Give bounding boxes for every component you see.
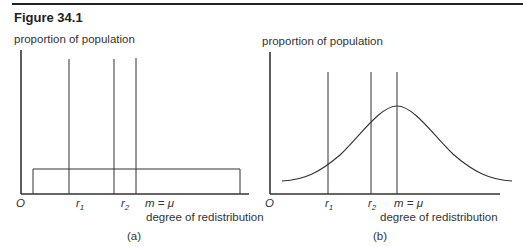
panel-b-r2-label: r2: [368, 197, 376, 209]
panel-b-plot: [270, 52, 512, 194]
panel-a-y-axis-label: proportion of population: [14, 33, 135, 45]
panel-a-origin-label: O: [16, 197, 25, 209]
panel-b-y-axis-label: proportion of population: [262, 35, 383, 47]
panel-a-r1-label: r1: [76, 197, 84, 209]
panel-a-r2-subscript: 2: [125, 203, 129, 212]
panel-a-plot: [21, 50, 249, 194]
panel-a-m-label: m = μ: [145, 197, 174, 209]
panel-b-r1-label: r1: [325, 197, 333, 209]
panel-b-r1-subscript: 1: [329, 203, 333, 212]
panel-b-x-axis-label: degree of redistribution: [380, 211, 498, 223]
panel-b-tag: (b): [373, 230, 387, 242]
panel-b-r2-subscript: 2: [372, 203, 376, 212]
panel-b-origin-label: O: [265, 197, 274, 209]
panel-a-tag: (a): [127, 230, 141, 242]
panel-b-m-label: m = μ: [394, 197, 423, 209]
panel-a-r1-subscript: 1: [80, 203, 84, 212]
panel-a-r2-label: r2: [121, 197, 129, 209]
panel-a-x-axis-label: degree of redistribution: [146, 211, 264, 223]
